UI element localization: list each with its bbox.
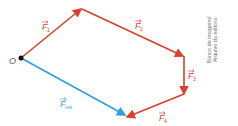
svg-text:4: 4 [164, 118, 167, 124]
origin-label: O [9, 56, 16, 66]
label-fres: F res [60, 98, 72, 111]
label-f2: F 2 [135, 20, 143, 33]
vector-diagram: O F 1 F 2 F 3 F 4 F res [0, 0, 238, 126]
label-f4: F 4 [159, 112, 167, 125]
vector-f2 [82, 9, 183, 56]
credit-line-2: Arquivo da editora [212, 16, 218, 63]
label-f3: F 3 [188, 70, 196, 83]
svg-text:3: 3 [193, 76, 196, 82]
label-f1: F 1 [42, 21, 50, 34]
image-credit: Banco de imagens/ Arquivo da editora [206, 16, 218, 63]
svg-text:res: res [65, 104, 72, 110]
vector-f1 [21, 9, 81, 58]
vector-f4 [127, 94, 184, 117]
svg-text:1: 1 [47, 27, 50, 33]
vector-resultant [21, 58, 125, 115]
svg-text:2: 2 [140, 26, 143, 32]
origin-point [19, 56, 24, 61]
